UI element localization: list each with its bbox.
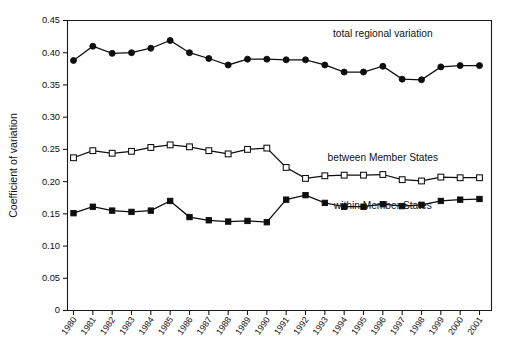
- data-point-marker: [187, 214, 192, 219]
- data-point-marker: [322, 200, 327, 205]
- data-point-marker: [90, 43, 96, 49]
- data-point-marker: [206, 148, 212, 154]
- data-point-marker: [187, 50, 193, 56]
- data-point-marker: [90, 204, 95, 209]
- x-axis-tick-label: 1982: [98, 315, 117, 337]
- x-axis-tick-label: 1984: [137, 315, 156, 337]
- data-point-marker: [167, 142, 173, 148]
- chart-container: 00.050.100.150.200.250.300.350.400.45Coe…: [0, 0, 506, 354]
- y-axis-tick-label: 0.45: [42, 15, 60, 25]
- x-axis-tick-label: 1992: [291, 315, 310, 337]
- data-point-marker: [341, 69, 347, 75]
- y-axis-tick-label: 0.20: [42, 177, 60, 187]
- data-point-marker: [148, 45, 154, 51]
- data-point-marker: [477, 196, 482, 201]
- data-point-marker: [283, 165, 289, 171]
- data-point-marker: [380, 63, 386, 69]
- data-point-marker: [361, 69, 367, 75]
- x-axis-tick-label: 2000: [446, 315, 465, 337]
- x-axis-tick-label: 1994: [330, 315, 349, 337]
- line-chart: 00.050.100.150.200.250.300.350.400.45Coe…: [0, 0, 506, 354]
- data-point-marker: [264, 145, 270, 151]
- y-axis-tick-label: 0.40: [42, 48, 60, 58]
- data-point-marker: [148, 208, 153, 213]
- y-axis-tick-label: 0.25: [42, 144, 60, 154]
- data-point-marker: [264, 56, 270, 62]
- data-point-marker: [264, 220, 269, 225]
- data-point-marker: [303, 192, 308, 197]
- data-point-marker: [109, 150, 115, 156]
- series-label-2: between Member States: [328, 152, 438, 163]
- data-point-marker: [245, 56, 251, 62]
- data-point-marker: [71, 155, 77, 161]
- data-point-marker: [206, 218, 211, 223]
- data-point-marker: [71, 57, 77, 63]
- x-axis-tick-label: 2001: [465, 315, 484, 337]
- y-axis-title: Coefficient of variation: [7, 113, 19, 218]
- data-point-marker: [419, 178, 425, 184]
- data-point-marker: [438, 174, 444, 180]
- y-axis-tick-label: 0: [55, 305, 60, 315]
- data-point-marker: [457, 175, 463, 181]
- data-point-marker: [167, 37, 173, 43]
- data-point-marker: [438, 64, 444, 70]
- data-point-marker: [206, 56, 212, 62]
- x-axis-tick-label: 1993: [311, 315, 330, 337]
- data-point-marker: [438, 198, 443, 203]
- x-axis-tick-label: 1996: [369, 315, 388, 337]
- data-point-marker: [109, 50, 115, 56]
- data-point-marker: [129, 50, 135, 56]
- data-point-marker: [341, 172, 347, 178]
- data-point-marker: [129, 209, 134, 214]
- series-label-1: total regional variation: [333, 28, 433, 39]
- data-point-marker: [167, 198, 172, 203]
- data-point-marker: [477, 175, 483, 181]
- data-point-marker: [283, 57, 289, 63]
- x-axis-tick-label: 1990: [253, 315, 272, 337]
- series-label-3: within Member States: [333, 200, 432, 211]
- data-point-marker: [399, 177, 405, 183]
- data-point-marker: [225, 151, 231, 157]
- x-axis-tick-label: 1983: [117, 315, 136, 337]
- series-line: [74, 40, 480, 79]
- data-point-marker: [457, 197, 462, 202]
- series-1: total regional variation: [71, 28, 483, 83]
- x-axis-tick-label: 1997: [388, 315, 407, 337]
- data-point-marker: [322, 173, 328, 179]
- data-point-marker: [303, 57, 309, 63]
- data-point-marker: [477, 63, 483, 69]
- data-point-marker: [303, 175, 309, 181]
- data-point-marker: [129, 148, 135, 154]
- data-point-marker: [245, 218, 250, 223]
- data-point-marker: [225, 62, 231, 68]
- y-axis-tick-label: 0.05: [42, 273, 60, 283]
- data-point-marker: [71, 210, 76, 215]
- plot-frame: [68, 21, 492, 311]
- data-point-marker: [380, 172, 386, 178]
- data-point-marker: [399, 76, 405, 82]
- x-axis-tick-label: 1981: [79, 315, 98, 337]
- data-point-marker: [225, 219, 230, 224]
- x-axis-tick-label: 1991: [272, 315, 291, 337]
- x-axis-tick-label: 1998: [407, 315, 426, 337]
- data-point-marker: [361, 172, 367, 178]
- y-axis-tick-label: 0.10: [42, 241, 60, 251]
- x-axis-tick-label: 1988: [214, 315, 233, 337]
- series-3: within Member States: [71, 192, 482, 224]
- data-point-marker: [148, 145, 154, 151]
- series-2: between Member States: [71, 142, 483, 184]
- data-point-marker: [457, 63, 463, 69]
- y-axis-tick-label: 0.35: [42, 80, 60, 90]
- y-axis-tick-label: 0.15: [42, 209, 60, 219]
- x-axis-tick-label: 1989: [233, 315, 252, 337]
- data-point-marker: [187, 144, 193, 150]
- data-point-marker: [245, 146, 251, 152]
- data-point-marker: [322, 62, 328, 68]
- data-point-marker: [419, 77, 425, 83]
- x-axis-tick-label: 1987: [195, 315, 214, 337]
- data-point-marker: [109, 208, 114, 213]
- data-point-marker: [283, 197, 288, 202]
- y-axis-tick-label: 0.30: [42, 112, 60, 122]
- x-axis-tick-label: 1995: [349, 315, 368, 337]
- x-axis-tick-label: 1986: [175, 315, 194, 337]
